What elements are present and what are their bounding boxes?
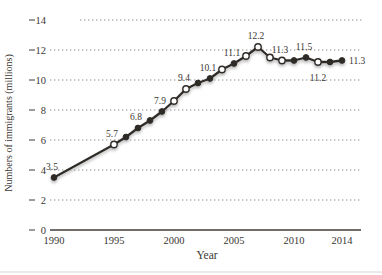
x-tick-label-2005: 2005 [224, 235, 245, 246]
series [51, 44, 345, 181]
data-label-1995: 5.7 [106, 129, 118, 139]
marker-2013 [327, 59, 333, 65]
x-tick-label-1995: 1995 [104, 235, 125, 246]
y-tick-label-8: 8 [41, 105, 46, 116]
marker-1996 [123, 134, 129, 140]
x-axis-title: Year [196, 249, 217, 261]
data-label-2003: 10.1 [200, 63, 217, 73]
chart-figure: 02468101214199019952000200520102014 3.55… [0, 0, 382, 275]
marker-1990 [51, 175, 57, 181]
marker-1999 [159, 109, 165, 115]
y-tick-label-10: 10 [36, 75, 47, 86]
marker-2005 [231, 61, 237, 67]
x-tick-label-2000: 2000 [164, 235, 185, 246]
data-label-2011: 11.5 [296, 42, 313, 52]
x-tick-label-2014: 2014 [332, 235, 354, 246]
marker-2010 [291, 58, 297, 64]
x-tick-label-1990: 1990 [44, 235, 65, 246]
marker-1998 [147, 118, 153, 124]
marker-2001 [183, 86, 189, 92]
marker-2011 [303, 55, 309, 61]
data-label-2001: 9.4 [178, 73, 190, 83]
marker-2000 [171, 98, 177, 104]
marker-2006 [243, 53, 249, 59]
y-axis-title: Numbers of immigrants (millions) [3, 54, 15, 192]
series-line [54, 47, 342, 178]
data-label-2007: 12.2 [248, 31, 265, 41]
marker-2007 [255, 44, 261, 50]
y-tick-label-12: 12 [36, 45, 47, 56]
marker-2003 [207, 76, 213, 82]
marker-2014 [339, 58, 345, 64]
marker-2008 [267, 54, 273, 60]
data-label-2012: 11.2 [310, 73, 327, 83]
data-label-2009: 11.3 [272, 45, 289, 55]
data-labels: 3.55.76.87.99.410.111.112.211.311.511.21… [46, 31, 365, 172]
marker-2012 [315, 59, 321, 65]
immigration-line-chart: 02468101214199019952000200520102014 3.55… [0, 0, 382, 275]
data-label-2014: 11.3 [349, 56, 366, 66]
marker-2004 [219, 66, 225, 72]
gridlines [50, 20, 362, 200]
x-tick-label-2010: 2010 [284, 235, 305, 246]
y-tick-label-2: 2 [41, 195, 46, 206]
data-label-2005: 11.1 [224, 48, 241, 58]
marker-1995 [111, 141, 117, 147]
data-label-1999: 7.9 [154, 96, 166, 106]
marker-2002 [195, 80, 201, 86]
marker-1997 [135, 125, 141, 131]
y-tick-label-6: 6 [41, 135, 46, 146]
marker-2009 [279, 57, 285, 63]
data-label-1990: 3.5 [46, 162, 58, 172]
y-tick-label-14: 14 [36, 15, 47, 26]
data-label-1997: 6.8 [130, 112, 142, 122]
